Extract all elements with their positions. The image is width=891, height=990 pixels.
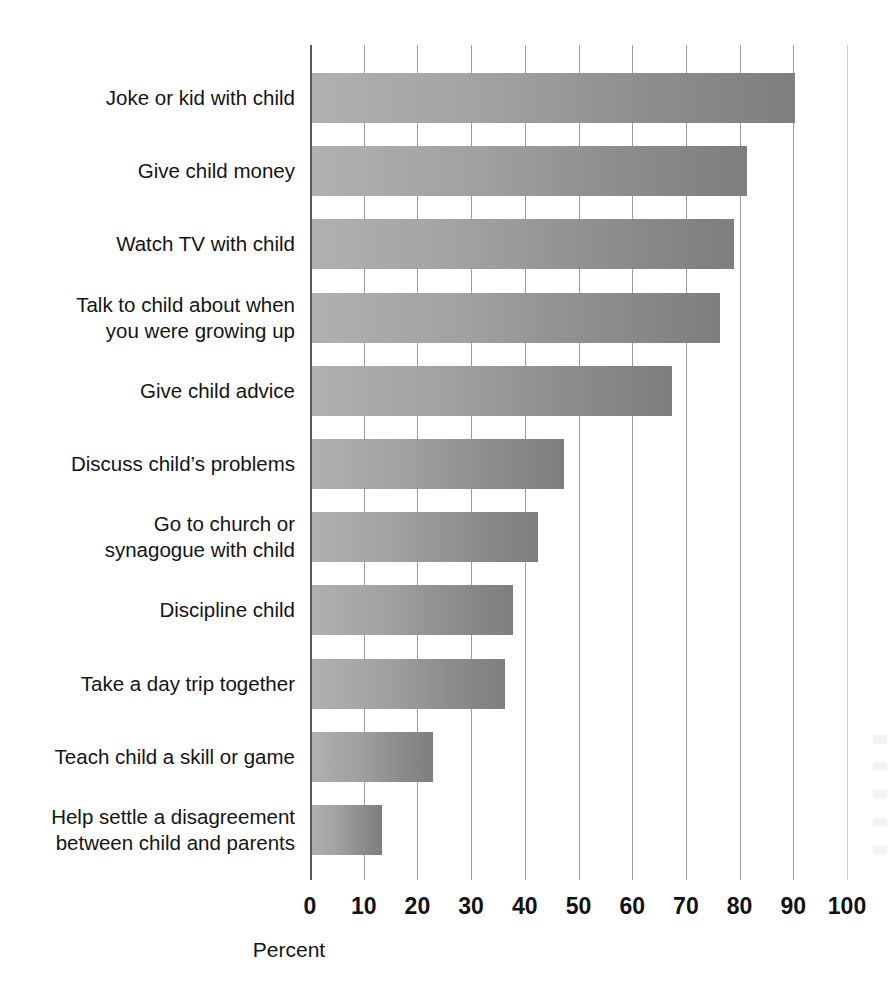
- scan-artifact: [873, 762, 887, 771]
- category-label: Give child advice: [0, 378, 295, 404]
- x-tick-0: 0: [280, 893, 340, 920]
- x-tick-60: 60: [602, 893, 662, 920]
- category-label: Help settle a disagreement between child…: [0, 804, 295, 856]
- category-label: Teach child a skill or game: [0, 744, 295, 770]
- plot-area: [310, 45, 847, 880]
- category-label: Discipline child: [0, 597, 295, 623]
- bar: [312, 585, 513, 635]
- category-label: Take a day trip together: [0, 671, 295, 697]
- scan-artifact: [873, 818, 887, 827]
- x-tick-10: 10: [334, 893, 394, 920]
- category-label: Talk to child about when you were growin…: [0, 292, 295, 344]
- x-tick-30: 30: [441, 893, 501, 920]
- bar: [312, 366, 672, 416]
- category-label: Go to church or synagogue with child: [0, 511, 295, 563]
- gridline-100: [847, 45, 848, 880]
- x-axis-title-text: Percent: [253, 938, 325, 962]
- bar: [312, 293, 720, 343]
- bar: [312, 146, 747, 196]
- scan-artifact: [873, 846, 887, 855]
- bar: [312, 732, 433, 782]
- x-tick-80: 80: [710, 893, 770, 920]
- x-axis-title: Percent: [0, 938, 891, 962]
- x-tick-20: 20: [387, 893, 447, 920]
- category-label: Give child money: [0, 158, 295, 184]
- bar: [312, 73, 795, 123]
- gridline-90: [793, 45, 794, 880]
- x-tick-50: 50: [549, 893, 609, 920]
- bar: [312, 512, 538, 562]
- x-tick-70: 70: [656, 893, 716, 920]
- scan-artifact: [873, 790, 887, 799]
- bar: [312, 219, 734, 269]
- x-tick-90: 90: [763, 893, 823, 920]
- bar: [312, 439, 564, 489]
- category-label: Joke or kid with child: [0, 85, 295, 111]
- x-tick-40: 40: [495, 893, 555, 920]
- bar: [312, 805, 382, 855]
- category-label: Watch TV with child: [0, 231, 295, 257]
- category-label: Discuss child’s problems: [0, 451, 295, 477]
- scan-artifact: [873, 735, 887, 744]
- chart-page: Joke or kid with childGive child moneyWa…: [0, 0, 891, 990]
- bar: [312, 659, 505, 709]
- x-tick-100: 100: [817, 893, 877, 920]
